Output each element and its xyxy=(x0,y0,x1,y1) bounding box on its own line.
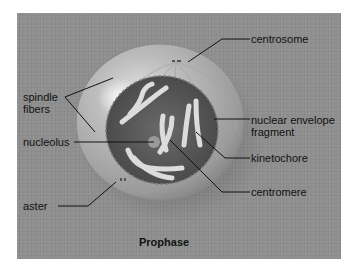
label-nuclear-envelope-fragment: nuclear envelope fragment xyxy=(251,114,335,138)
label-nuclear-envelope-line1: nuclear envelope xyxy=(251,114,335,126)
label-kinetochore: kinetochore xyxy=(251,152,308,164)
label-nucleolus: nucleolus xyxy=(23,136,69,148)
label-aster: aster xyxy=(23,200,47,212)
label-centromere: centromere xyxy=(251,186,307,198)
label-centrosome: centrosome xyxy=(251,33,308,45)
label-spindle-fibers: spindle fibers xyxy=(23,91,58,115)
label-spindle-fibers-line2: fibers xyxy=(23,103,58,115)
label-spindle-fibers-line1: spindle xyxy=(23,91,58,103)
label-nuclear-envelope-line2: fragment xyxy=(251,126,335,138)
diagram-title: Prophase xyxy=(139,236,189,248)
